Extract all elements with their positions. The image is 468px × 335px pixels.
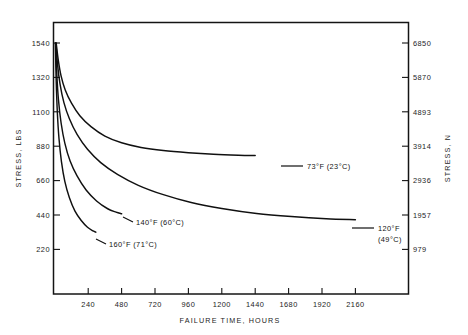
y-tick-label-left: 1540: [32, 39, 50, 48]
series-label-160f: 160°F (71°C): [109, 240, 157, 249]
y-tick-label-right: 5870: [413, 73, 431, 82]
y-tick-label-right: 4893: [413, 108, 431, 117]
y-tick-label-right: 1957: [413, 211, 431, 220]
y-tick-label-right: 979: [413, 245, 427, 254]
y-tick-label-left: 1320: [32, 73, 50, 82]
y-axis-title-left: STRESS, LBS: [14, 129, 23, 188]
y-tick-label-right: 6850: [413, 39, 431, 48]
stress-rupture-chart: 1540 1320 1100 880 660 440 220 STRESS, L…: [0, 0, 468, 335]
x-axis-title: FAILURE TIME, HOURS: [180, 316, 281, 325]
y-tick-label-right: 3914: [413, 142, 431, 151]
y-tick-label-left: 1100: [32, 108, 50, 117]
x-tick-label: 960: [182, 300, 196, 309]
x-tick-label: 240: [81, 300, 95, 309]
y-tick-label-left: 440: [36, 211, 50, 220]
series-label-73f: 73°F (23°C): [307, 162, 351, 171]
y-tick-label-right: 2936: [413, 176, 431, 185]
series-label-140f: 140°F (60°C): [136, 218, 184, 227]
x-tick-label: 480: [115, 300, 129, 309]
series-label-120f: 120°F: [378, 224, 400, 233]
chart-canvas: 1540 1320 1100 880 660 440 220 STRESS, L…: [0, 0, 468, 335]
series-label-120f-celsius: (49°C): [378, 235, 402, 244]
x-tick-label: 1680: [279, 300, 297, 309]
x-tick-label: 2160: [346, 300, 364, 309]
x-tick-label: 1920: [313, 300, 331, 309]
y-tick-label-left: 660: [36, 176, 50, 185]
y-tick-label-left: 220: [36, 245, 50, 254]
x-tick-label: 1200: [213, 300, 231, 309]
x-tick-label: 1440: [246, 300, 264, 309]
y-tick-label-left: 880: [36, 142, 50, 151]
x-tick-label: 720: [148, 300, 162, 309]
y-axis-title-right: STRESS, N: [443, 134, 452, 182]
chart-background: [0, 0, 468, 335]
